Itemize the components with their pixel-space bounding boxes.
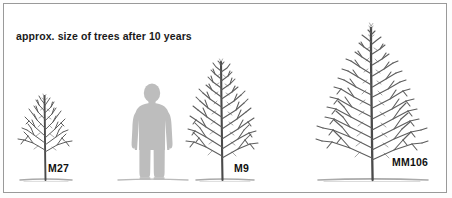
- tree-m9: [186, 59, 258, 180]
- tree-mm106: [316, 23, 428, 180]
- figure-artwork: [0, 0, 452, 198]
- human-silhouette: [132, 83, 173, 180]
- tree-m27: [18, 94, 72, 180]
- ground-lines: [20, 179, 428, 182]
